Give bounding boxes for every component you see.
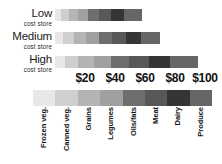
bar-segment xyxy=(112,32,126,44)
row-label-medium: Medium cost store xyxy=(0,31,52,50)
legend-swatch xyxy=(145,90,167,106)
legend-swatch xyxy=(100,90,122,106)
bar-segment xyxy=(129,56,149,68)
legend-item: Oils/fats xyxy=(123,107,145,164)
bar-segment xyxy=(149,56,170,68)
axis-tick-label: $80 xyxy=(165,71,184,85)
bar-segment xyxy=(86,32,99,44)
row-subtitle-medium: cost store xyxy=(0,44,52,50)
row-title-high: High xyxy=(0,54,52,66)
legend-swatch xyxy=(33,90,55,106)
bar-segment xyxy=(55,56,65,68)
bar-segment xyxy=(124,9,142,21)
row-label-high: High cost store xyxy=(0,54,52,73)
legend-swatch xyxy=(167,90,189,106)
bar-low xyxy=(55,9,142,21)
legend-item-label: Canned veg. xyxy=(63,107,71,151)
row-title-medium: Medium xyxy=(0,31,52,43)
row-label-low: Low cost store xyxy=(0,8,52,27)
legend-item-label: Dairy xyxy=(175,107,183,126)
bar-segment xyxy=(99,32,113,44)
legend-item-label: Produce xyxy=(197,107,205,137)
legend-item: Canned veg. xyxy=(55,107,77,164)
bar-segment xyxy=(88,9,99,21)
legend-item-label: Oils/fats xyxy=(130,107,138,136)
legend-swatch xyxy=(78,90,100,106)
legend-swatch xyxy=(123,90,145,106)
legend-item: Meat xyxy=(145,107,167,164)
axis-tick-label: $100 xyxy=(192,71,218,85)
axis-tick-label: $60 xyxy=(135,71,154,85)
legend-item-label: Frozen veg. xyxy=(40,107,48,148)
legend-item-label: Legumes xyxy=(108,107,116,140)
legend-item: Legumes xyxy=(100,107,122,164)
bar-high xyxy=(55,56,198,68)
bar-segment xyxy=(61,9,69,21)
bar-segment xyxy=(55,32,63,44)
legend-labels: Frozen veg.Canned veg.GrainsLegumesOils/… xyxy=(33,107,212,164)
bar-segment xyxy=(111,56,130,68)
bar-segment xyxy=(69,9,78,21)
row-subtitle-high: cost store xyxy=(0,67,52,73)
bar-segment xyxy=(126,32,141,44)
legend-item: Produce xyxy=(190,107,212,164)
legend-item: Grains xyxy=(78,107,100,164)
row-title-low: Low xyxy=(0,8,52,20)
x-axis: $20$40$60$80$100 xyxy=(55,71,222,87)
bar-medium xyxy=(55,32,160,44)
bar-segment xyxy=(94,56,111,68)
legend-item: Dairy xyxy=(167,107,189,164)
bar-segment xyxy=(78,9,88,21)
legend-color-strip xyxy=(33,90,212,106)
bar-segment xyxy=(65,56,79,68)
legend-item-label: Meat xyxy=(152,107,160,124)
bar-segment xyxy=(99,9,111,21)
row-subtitle-low: cost store xyxy=(0,21,52,27)
bar-segment xyxy=(74,32,86,44)
legend-swatch xyxy=(55,90,77,106)
bar-segment xyxy=(78,56,94,68)
bar-segment xyxy=(111,9,124,21)
stacked-bar-chart: Low cost store Medium cost store High co… xyxy=(0,0,222,164)
legend-item: Frozen veg. xyxy=(33,107,55,164)
bar-segment xyxy=(63,32,74,44)
legend-swatch xyxy=(190,90,212,106)
legend-item-label: Grains xyxy=(85,107,93,130)
bar-segment xyxy=(141,32,160,44)
axis-tick-label: $20 xyxy=(75,71,94,85)
bar-segment xyxy=(170,56,198,68)
axis-tick-label: $40 xyxy=(105,71,124,85)
